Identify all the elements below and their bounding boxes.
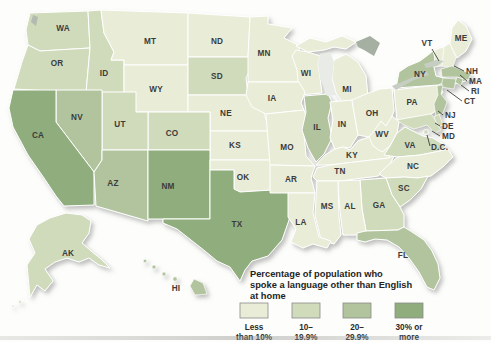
state-dc bbox=[424, 130, 428, 134]
state-label-il: IL bbox=[313, 123, 321, 132]
state-label-ca: CA bbox=[32, 131, 44, 140]
state-label-me: ME bbox=[455, 34, 468, 43]
map-landmass bbox=[9, 10, 472, 307]
state-label-ri: RI bbox=[471, 87, 480, 96]
state-label-nv: NV bbox=[71, 113, 83, 122]
legend-title-line-3: at home bbox=[250, 291, 286, 301]
legend-label-30-line-1: 30% or bbox=[396, 323, 424, 332]
state-ak-island bbox=[12, 305, 14, 307]
state-label-ky: KY bbox=[346, 151, 358, 160]
us-choropleth-map: WA OR ID MT ND SD WY NV UT CO NE KS CA A… bbox=[0, 0, 491, 342]
state-label-ut: UT bbox=[114, 120, 125, 129]
state-label-la: LA bbox=[295, 218, 306, 227]
legend-swatch-10-19 bbox=[292, 303, 320, 318]
state-az bbox=[94, 150, 148, 221]
state-label-mi: MI bbox=[342, 85, 352, 94]
legend-swatch-30-more bbox=[395, 303, 423, 318]
legend-swatch-less-than-10 bbox=[240, 303, 268, 318]
state-ak-island bbox=[19, 301, 22, 304]
state-label-de: DE bbox=[442, 122, 454, 131]
state-label-pa: PA bbox=[406, 98, 417, 107]
state-label-ma: MA bbox=[469, 77, 482, 86]
state-label-hi: HI bbox=[172, 284, 181, 293]
lake-huron bbox=[356, 36, 380, 56]
state-label-nh: NH bbox=[466, 67, 478, 76]
state-label-wv: WV bbox=[375, 130, 389, 139]
state-label-nm: NM bbox=[161, 182, 174, 191]
page-scan-artifact bbox=[0, 336, 491, 340]
state-ct bbox=[441, 78, 456, 89]
state-or bbox=[14, 45, 90, 93]
legend-label-10-line-1: 10– bbox=[299, 323, 313, 332]
state-label-ny: NY bbox=[414, 70, 426, 79]
legend-label-20-line-1: 20– bbox=[350, 323, 364, 332]
state-label-al: AL bbox=[344, 202, 355, 211]
state-label-ar: AR bbox=[285, 175, 297, 184]
textbook-map-figure: WA OR ID MT ND SD WY NV UT CO NE KS CA A… bbox=[0, 0, 491, 342]
state-label-wa: WA bbox=[56, 24, 70, 33]
state-label-fl: FL bbox=[398, 251, 408, 260]
state-label-nc: NC bbox=[407, 162, 419, 171]
state-label-in: IN bbox=[338, 120, 347, 129]
state-label-sd: SD bbox=[211, 72, 223, 81]
state-hi-big-island bbox=[190, 279, 207, 295]
leader-ct bbox=[447, 90, 462, 101]
state-label-sc: SC bbox=[398, 184, 410, 193]
legend-swatch-20-29 bbox=[343, 303, 371, 318]
state-hi-island bbox=[152, 265, 156, 269]
state-label-co: CO bbox=[166, 129, 179, 138]
state-nd bbox=[188, 13, 250, 57]
state-label-md: MD bbox=[442, 132, 455, 141]
state-label-wi: WI bbox=[301, 69, 311, 78]
state-label-ak: AK bbox=[62, 249, 74, 258]
state-label-id: ID bbox=[100, 69, 109, 78]
state-label-tx: TX bbox=[232, 220, 243, 229]
state-label-ms: MS bbox=[321, 202, 334, 211]
state-label-ok: OK bbox=[237, 173, 250, 182]
state-mn bbox=[248, 16, 300, 82]
state-ri bbox=[455, 77, 463, 86]
state-hi-island bbox=[162, 272, 166, 276]
legend-title-line-1: Percentage of population who bbox=[250, 269, 383, 279]
state-label-wy: WY bbox=[149, 85, 163, 94]
state-label-mt: MT bbox=[144, 37, 156, 46]
state-co bbox=[148, 112, 210, 150]
state-label-az: AZ bbox=[107, 179, 118, 188]
state-label-va: VA bbox=[404, 141, 415, 150]
state-label-ct: CT bbox=[464, 97, 475, 106]
state-label-ne: NE bbox=[220, 109, 232, 118]
state-nm bbox=[148, 150, 210, 219]
state-label-vt: VT bbox=[422, 39, 433, 48]
state-hi-island bbox=[173, 277, 177, 281]
state-label-oh: OH bbox=[366, 109, 379, 118]
legend-label-less-line-1: Less bbox=[245, 323, 264, 332]
state-label-tn: TN bbox=[334, 167, 345, 176]
legend-title-line-2: spoke a language other than English bbox=[250, 280, 413, 290]
state-label-or: OR bbox=[51, 59, 64, 68]
state-label-mo: MO bbox=[280, 143, 294, 152]
state-label-nj: NJ bbox=[445, 111, 456, 120]
state-label-ia: IA bbox=[268, 94, 277, 103]
state-label-ks: KS bbox=[229, 141, 241, 150]
state-label-mn: MN bbox=[257, 49, 270, 58]
leader-ri bbox=[461, 85, 469, 91]
state-label-ga: GA bbox=[373, 201, 386, 210]
state-hi-island bbox=[143, 259, 147, 263]
state-label-nd: ND bbox=[211, 37, 223, 46]
legend: Percentage of population who spoke a lan… bbox=[236, 269, 423, 342]
state-label-dc: D.C. bbox=[431, 143, 448, 152]
